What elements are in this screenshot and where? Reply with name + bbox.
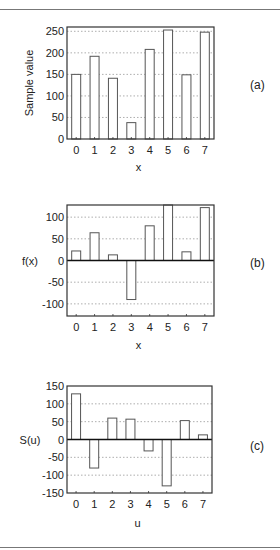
x-axis-label: u (134, 517, 140, 529)
chart-c-canvas: 01234567-150-100-50050100150uS(u) (0, 0, 280, 550)
x-tick-label: 0 (73, 498, 79, 510)
bar-0 (72, 394, 81, 440)
y-tick-label: 50 (52, 416, 64, 428)
x-tick-label: 1 (91, 498, 97, 510)
chart-c: 01234567-150-100-50050100150uS(u) (c) (0, 0, 280, 550)
y-axis-label: S(u) (20, 434, 41, 446)
bar-1 (90, 440, 99, 469)
y-tick-label: 150 (46, 380, 64, 392)
bar-4 (144, 440, 153, 451)
y-tick-label: 0 (58, 434, 64, 446)
x-tick-label: 7 (200, 498, 206, 510)
panel-label-c: (c) (250, 439, 264, 453)
bar-3 (126, 419, 135, 439)
y-tick-label: 100 (46, 398, 64, 410)
y-tick-label: -150 (42, 487, 64, 499)
x-tick-label: 3 (127, 498, 133, 510)
x-tick-label: 5 (164, 498, 170, 510)
y-tick-label: -50 (48, 451, 64, 463)
bar-2 (108, 418, 117, 439)
x-tick-label: 4 (146, 498, 152, 510)
bottom-border-rule (0, 547, 280, 548)
bar-6 (180, 421, 189, 440)
x-tick-label: 2 (109, 498, 115, 510)
bar-5 (162, 440, 171, 486)
x-tick-label: 6 (182, 498, 188, 510)
y-tick-label: -100 (42, 469, 64, 481)
